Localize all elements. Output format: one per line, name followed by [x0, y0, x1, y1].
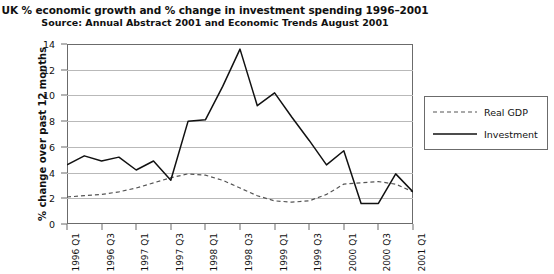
legend-label-real-gdp: Real GDP: [484, 107, 528, 118]
chart-lines: [67, 44, 413, 224]
x-tick-label: 2000 Q1: [348, 233, 358, 272]
y-tick-label: 10: [43, 90, 55, 101]
x-tick-label: 1996 Q3: [106, 233, 116, 272]
solid-line-icon: [433, 129, 477, 139]
dashed-line-icon: [433, 107, 477, 117]
y-tick-label: 4: [49, 167, 55, 178]
x-tick-label: 1999 Q3: [313, 233, 323, 272]
y-tick-label: 0: [49, 219, 55, 230]
legend-item-investment: Investment: [433, 127, 538, 141]
x-tick-mark: [136, 224, 137, 230]
chart-legend: Real GDP Investment: [424, 96, 548, 150]
y-tick-label: 2: [49, 193, 55, 204]
y-tick-label: 8: [49, 116, 55, 127]
x-tick-label: 2001 Q1: [417, 233, 427, 272]
y-tick-label: 14: [43, 39, 55, 50]
x-tick-mark: [413, 224, 414, 230]
legend-item-real-gdp: Real GDP: [433, 105, 528, 119]
y-tick-label: 12: [43, 64, 55, 75]
chart-subtitle: Source: Annual Abstract 2001 and Economi…: [0, 17, 430, 29]
series-line-investment: [67, 49, 413, 203]
x-tick-mark: [101, 224, 102, 230]
x-tick-label: 2000 Q3: [382, 233, 392, 272]
x-tick-mark: [378, 224, 379, 230]
x-tick-mark: [205, 224, 206, 230]
x-tick-label: 1999 Q1: [279, 233, 289, 272]
x-tick-label: 1996 Q1: [71, 233, 81, 272]
x-tick-label: 1997 Q3: [175, 233, 185, 272]
legend-label-investment: Investment: [484, 129, 538, 140]
x-tick-mark: [240, 224, 241, 230]
x-tick-label: 1998 Q3: [244, 233, 254, 272]
series-line-real-gdp: [67, 174, 413, 202]
x-tick-label: 1997 Q1: [140, 233, 150, 272]
x-tick-mark: [274, 224, 275, 230]
x-axis: 1996 Q11996 Q31997 Q11997 Q31998 Q11998 …: [67, 224, 413, 274]
x-tick-mark: [67, 224, 68, 230]
x-tick-mark: [309, 224, 310, 230]
y-axis: 02468101214: [0, 44, 67, 224]
plot-area: [67, 44, 413, 224]
chart-title: UK % economic growth and % change in inv…: [0, 4, 430, 17]
chart-page: UK % economic growth and % change in inv…: [0, 0, 554, 274]
x-tick-mark: [170, 224, 171, 230]
y-tick-label: 6: [49, 141, 55, 152]
x-tick-mark: [343, 224, 344, 230]
x-tick-label: 1998 Q1: [209, 233, 219, 272]
